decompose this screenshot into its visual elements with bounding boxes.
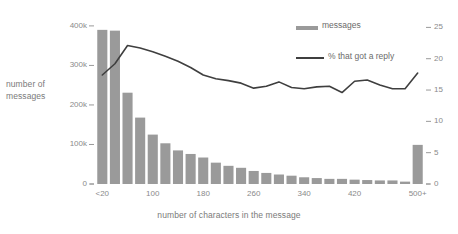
x-tick-label: <20 bbox=[80, 189, 124, 198]
x-tick-label: 500+ bbox=[396, 189, 440, 198]
bar bbox=[299, 177, 309, 184]
bar bbox=[249, 171, 259, 184]
chart-figure: number of messages number of characters … bbox=[0, 0, 458, 234]
legend-label-reply-rate: % that got a reply bbox=[328, 51, 394, 61]
bar bbox=[375, 180, 385, 184]
x-axis-label: number of characters in the message bbox=[0, 210, 458, 220]
y-tick-label-right: 15 bbox=[434, 85, 458, 94]
bar bbox=[286, 176, 296, 184]
bar bbox=[236, 168, 246, 184]
y-tick-label-left: 0 bbox=[43, 179, 87, 188]
bar bbox=[400, 182, 410, 184]
bar bbox=[324, 179, 334, 184]
bar bbox=[387, 180, 397, 184]
bar bbox=[97, 30, 107, 184]
bar bbox=[223, 166, 233, 184]
bar bbox=[135, 118, 145, 184]
bar bbox=[413, 145, 423, 184]
y-tick-label-right: 25 bbox=[434, 22, 458, 31]
y-tick-label-right: 20 bbox=[434, 54, 458, 63]
legend-swatch-reply-rate bbox=[296, 57, 324, 59]
y-tick-label-left: 400k bbox=[43, 21, 87, 30]
y-tick-label-right: 0 bbox=[434, 179, 458, 188]
y-tick-label-right: 10 bbox=[434, 116, 458, 125]
bar bbox=[186, 154, 196, 184]
bar bbox=[350, 180, 360, 184]
bar bbox=[173, 150, 183, 184]
bar bbox=[160, 143, 170, 184]
y-tick-label-right: 5 bbox=[434, 148, 458, 157]
bar bbox=[261, 173, 271, 184]
x-tick-label: 180 bbox=[181, 189, 225, 198]
plot-area bbox=[0, 0, 458, 234]
y-axis-label-left: number of messages bbox=[6, 78, 66, 102]
bar bbox=[211, 163, 221, 184]
bar bbox=[110, 31, 120, 184]
bar bbox=[122, 93, 132, 184]
legend-swatch-messages bbox=[296, 26, 318, 30]
y-tick-label-left: 300k bbox=[43, 60, 87, 69]
y-tick-label-left: 100k bbox=[43, 139, 87, 148]
bar bbox=[148, 135, 158, 184]
bar bbox=[337, 179, 347, 184]
legend-label-messages: messages bbox=[322, 20, 361, 30]
bar bbox=[362, 180, 372, 184]
bar bbox=[274, 175, 284, 184]
y-axis-label-left-line1: number of bbox=[6, 78, 66, 90]
bar bbox=[312, 178, 322, 184]
x-tick-label: 420 bbox=[333, 189, 377, 198]
y-tick-label-left: 200k bbox=[43, 100, 87, 109]
x-tick-label: 260 bbox=[232, 189, 276, 198]
bar bbox=[198, 158, 208, 184]
x-tick-label: 340 bbox=[282, 189, 326, 198]
x-tick-label: 100 bbox=[131, 189, 175, 198]
